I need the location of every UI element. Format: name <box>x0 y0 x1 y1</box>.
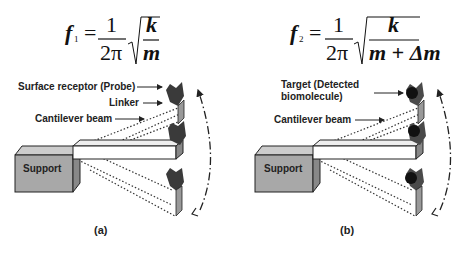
eq-b-root-denominator: m + Δm <box>369 40 441 66</box>
eq-a-root-numerator: k <box>146 12 157 38</box>
eq-a-root-denominator: m <box>143 40 160 66</box>
eq-a-equals: = <box>84 20 96 46</box>
eq-a-lhs: f <box>65 20 72 46</box>
label-support-a: Support <box>23 163 61 174</box>
eq-b-equals: = <box>309 20 321 46</box>
label-support-b: Support <box>264 163 302 174</box>
eq-b-root-numerator: k <box>388 12 399 38</box>
label-target-line1: Target (Detected <box>281 79 359 91</box>
eq-a-numerator: 1 <box>106 12 117 38</box>
caption-a: (a) <box>94 224 107 236</box>
eq-a-denominator: 2π <box>100 40 122 66</box>
eq-a-subscript: 1 <box>74 34 79 44</box>
label-linker: Linker <box>109 97 139 109</box>
eq-b-denominator: 2π <box>326 40 348 66</box>
eq-b-numerator: 1 <box>333 12 344 38</box>
label-probe: Surface receptor (Probe) <box>18 81 135 93</box>
label-beam-b: Cantilever beam <box>274 114 351 126</box>
eq-b-lhs: f <box>290 20 297 46</box>
eq-b-subscript: 2 <box>299 34 304 44</box>
caption-b: (b) <box>340 224 354 236</box>
label-beam-a: Cantilever beam <box>35 113 112 125</box>
label-target-line2: biomolecule) <box>281 91 343 103</box>
